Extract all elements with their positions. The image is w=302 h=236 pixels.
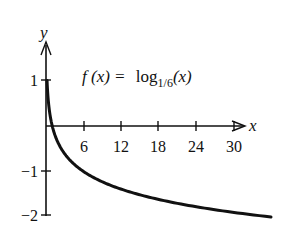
y-tick-label: 1 [30, 72, 38, 89]
x-tick-label: 24 [188, 138, 204, 155]
x-tick-label: 18 [150, 138, 166, 155]
function-lhs: f (x) = [82, 67, 126, 86]
function-arg: (x) [173, 67, 192, 86]
function-base: 1/6 [158, 76, 173, 90]
x-axis-label: x [248, 116, 257, 135]
chart: y x 6 12 18 24 30 1 −1 −2 f (x) = log1/6… [0, 0, 302, 236]
y-tick-label: −2 [21, 207, 38, 224]
x-tick-label: 6 [80, 138, 88, 155]
function-label: f (x) = log1/6(x) [82, 67, 192, 90]
function-name: log [136, 67, 158, 86]
x-tick-label: 30 [226, 138, 242, 155]
x-tick-label: 12 [113, 138, 129, 155]
y-axis-label: y [38, 23, 48, 42]
y-tick-label: −1 [21, 163, 38, 180]
